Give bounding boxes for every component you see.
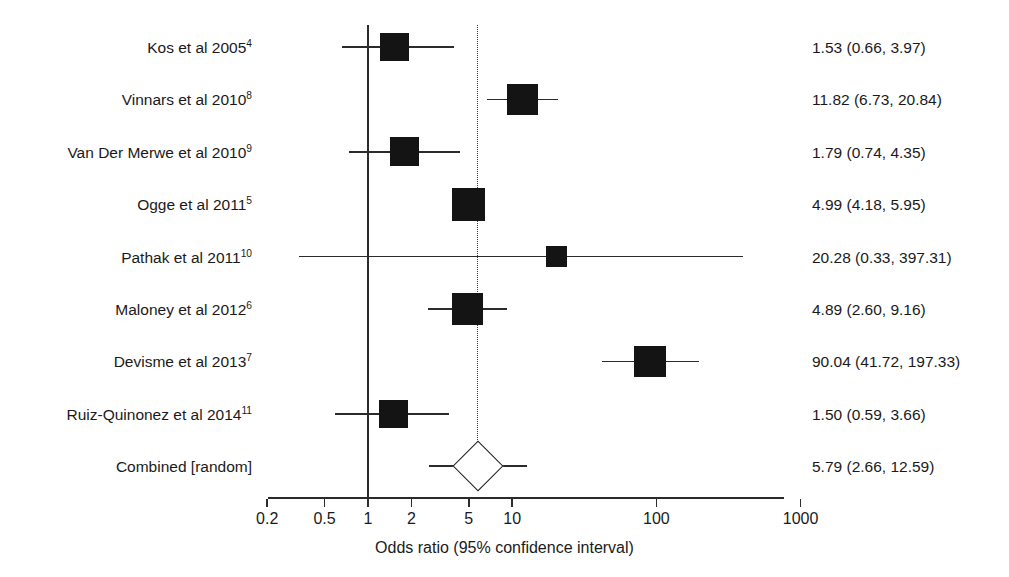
study-effect-marker	[380, 33, 409, 62]
effect-estimate-value: 90.04 (41.72, 197.33)	[812, 354, 960, 370]
effect-estimate-value: 5.79 (2.66, 12.59)	[812, 459, 934, 475]
study-label: Devisme et al 20137	[0, 354, 252, 370]
study-reference-number: 5	[246, 195, 252, 206]
x-axis-tick	[468, 499, 470, 507]
study-label: Pathak et al 201110	[0, 250, 252, 266]
study-reference-number: 8	[246, 90, 252, 101]
study-label: Combined [random]	[0, 459, 252, 475]
study-reference-number: 9	[246, 143, 252, 154]
study-effect-marker	[390, 137, 419, 166]
x-axis-tick-label: 0.5	[313, 511, 335, 527]
confidence-interval-line	[458, 203, 480, 205]
effect-estimate-value: 1.79 (0.74, 4.35)	[812, 145, 926, 161]
study-effect-marker	[507, 84, 538, 115]
study-effect-marker	[452, 293, 483, 324]
study-label: Vinnars et al 20108	[0, 92, 252, 108]
x-axis-tick	[656, 499, 658, 507]
study-reference-number: 11	[241, 405, 252, 416]
study-effect-marker	[452, 188, 485, 221]
x-axis-tick	[511, 499, 513, 507]
confidence-interval-line	[349, 151, 460, 153]
effect-estimate-value: 4.99 (4.18, 5.95)	[812, 197, 926, 213]
confidence-interval-line	[429, 465, 526, 467]
study-reference-number: 7	[246, 352, 252, 363]
study-label: Ogge et al 20115	[0, 197, 252, 213]
x-axis-title: Odds ratio (95% confidence interval)	[0, 540, 1009, 556]
x-axis-line	[268, 497, 784, 499]
confidence-interval-line	[602, 361, 699, 363]
x-axis-tick	[367, 499, 369, 507]
x-axis-tick	[800, 499, 802, 507]
pooled-effect-diamond	[453, 441, 504, 492]
confidence-interval-line	[342, 46, 454, 48]
x-axis-tick-label: 100	[643, 511, 670, 527]
study-effect-marker	[379, 400, 408, 429]
effect-estimate-value: 1.50 (0.59, 3.66)	[812, 407, 926, 423]
x-axis-tick	[324, 499, 326, 507]
forest-plot: Kos et al 20054Vinnars et al 20108Van De…	[0, 0, 1009, 577]
pooled-estimate-line	[477, 25, 478, 470]
x-axis-tick-label: 5	[464, 511, 473, 527]
plot-area	[0, 0, 1009, 577]
study-effect-marker	[634, 346, 665, 377]
study-effect-marker	[546, 246, 568, 268]
x-axis-tick-label: 10	[503, 511, 521, 527]
study-label: Ruiz-Quinonez et al 201411	[0, 407, 252, 423]
x-axis-tick-label: 1000	[783, 511, 819, 527]
null-reference-line	[367, 25, 369, 497]
study-reference-number: 6	[246, 300, 252, 311]
confidence-interval-line	[299, 256, 743, 258]
confidence-interval-line	[335, 413, 449, 415]
study-reference-number: 4	[246, 38, 252, 49]
study-reference-number: 10	[241, 247, 252, 258]
x-axis-tick-label: 2	[407, 511, 416, 527]
effect-estimate-value: 11.82 (6.73, 20.84)	[812, 92, 942, 108]
study-label: Maloney et al 20126	[0, 302, 252, 318]
confidence-interval-line	[428, 308, 507, 310]
effect-estimate-value: 4.89 (2.60, 9.16)	[812, 302, 926, 318]
x-axis-tick-label: 0.2	[256, 511, 278, 527]
x-axis-tick	[411, 499, 413, 507]
study-label: Kos et al 20054	[0, 40, 252, 56]
study-label: Van Der Merwe et al 20109	[0, 145, 252, 161]
x-axis-tick-label: 1	[364, 511, 373, 527]
x-axis-tick	[266, 499, 268, 507]
effect-estimate-value: 20.28 (0.33, 397.31)	[812, 250, 952, 266]
effect-estimate-value: 1.53 (0.66, 3.97)	[812, 40, 926, 56]
confidence-interval-line	[487, 99, 558, 101]
